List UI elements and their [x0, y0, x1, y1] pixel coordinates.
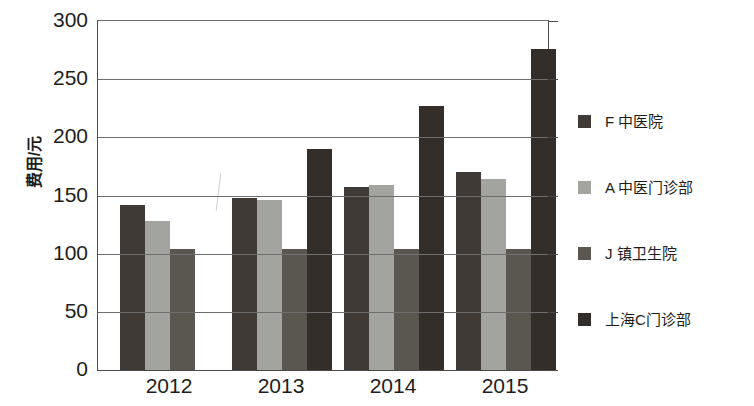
legend-item-3[interactable]: J 镇卫生院 [578, 242, 677, 264]
x-axis-tick-2013: 2013 [226, 374, 336, 398]
y-axis-tick-0: 0 [26, 358, 88, 379]
bar-2015-series-2 [481, 179, 506, 370]
y-axis-tick-250: 250 [26, 67, 88, 88]
bar-2013-series-1 [232, 198, 257, 370]
x-axis-tick-2015: 2015 [450, 374, 560, 398]
legend-swatch-icon [578, 247, 591, 260]
bar-2012-series-2 [145, 221, 170, 370]
y-axis-tick-mark [549, 254, 558, 255]
bar-2014-series-2 [369, 185, 394, 370]
legend-item-2[interactable]: A 中医门诊部 [578, 176, 693, 198]
y-axis-tick-labels: 050100150200250300 [26, 0, 88, 406]
bar-2015-series-4 [531, 49, 556, 370]
bar-2014-series-3 [394, 249, 419, 370]
bar-2014-series-4 [419, 106, 444, 370]
plot-area [97, 20, 549, 371]
bar-2015-series-1 [456, 172, 481, 370]
y-axis-tick-150: 150 [26, 184, 88, 205]
bar-2013-series-4 [307, 149, 332, 370]
legend-item-4[interactable]: 上海C门诊部 [578, 308, 691, 330]
x-axis-tick-2014: 2014 [338, 374, 448, 398]
legend-label: F 中医院 [605, 113, 663, 130]
gridline [98, 196, 548, 197]
bar-2013-series-2 [257, 200, 282, 370]
y-axis-tick-200: 200 [26, 125, 88, 146]
legend-item-1[interactable]: F 中医院 [578, 110, 663, 132]
y-axis-tick-300: 300 [26, 9, 88, 30]
gridline [98, 137, 548, 138]
y-axis-tick-mark [549, 79, 558, 80]
x-axis-tick-2012: 2012 [114, 374, 224, 398]
legend-swatch-icon [578, 313, 591, 326]
bar-chart: 费用/元 050100150200250300 2012201320142015… [0, 0, 754, 406]
x-axis-tick-labels: 2012201320142015 [97, 374, 549, 404]
bar-2013-series-3 [282, 249, 307, 370]
bar-2014-series-1 [344, 187, 369, 370]
y-axis-tick-mark [549, 137, 558, 138]
y-axis-tick-mark [549, 312, 558, 313]
bar-2012-series-3 [170, 249, 195, 370]
y-axis-tick-mark [549, 196, 558, 197]
gridline [98, 254, 548, 255]
legend-label: A 中医门诊部 [605, 179, 693, 196]
legend-label: J 镇卫生院 [605, 245, 677, 262]
gridline [98, 312, 548, 313]
y-axis-tick-mark [549, 370, 558, 371]
bar-2012-series-1 [120, 205, 145, 370]
legend-swatch-icon [578, 181, 591, 194]
y-axis-tick-100: 100 [26, 242, 88, 263]
gridline [98, 79, 548, 80]
bar-2015-series-3 [506, 249, 531, 370]
y-axis-tick-mark [549, 21, 558, 22]
y-axis-tick-50: 50 [26, 300, 88, 321]
legend-label: 上海C门诊部 [605, 311, 691, 328]
legend-swatch-icon [578, 115, 591, 128]
